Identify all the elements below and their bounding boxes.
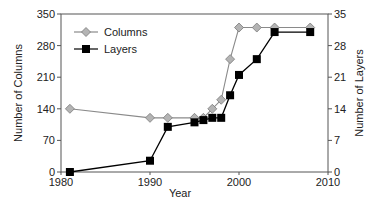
left-tick-label: 280 xyxy=(37,40,55,52)
square-marker-icon xyxy=(235,71,243,79)
diamond-marker-icon xyxy=(235,23,244,32)
right-tick-label: 35 xyxy=(334,8,346,20)
left-tick-label: 140 xyxy=(37,103,55,115)
left-y-axis-title: Number of Columns xyxy=(12,44,24,142)
diamond-marker-icon xyxy=(163,113,172,122)
right-tick-label: 28 xyxy=(334,40,346,52)
plot-border xyxy=(61,14,328,172)
legend-label-columns: Columns xyxy=(104,26,148,38)
plot-frame xyxy=(61,14,328,172)
square-marker-icon xyxy=(146,157,154,165)
legend-item-layers: Layers xyxy=(74,43,138,55)
right-tick-label: 14 xyxy=(334,103,346,115)
square-marker-icon xyxy=(164,123,172,131)
square-marker-icon xyxy=(226,91,234,99)
right-y-axis: 0714212835 xyxy=(328,8,346,178)
square-marker-icon xyxy=(66,168,74,176)
right-tick-label: 7 xyxy=(334,134,340,146)
diamond-marker-icon xyxy=(82,28,91,37)
left-tick-label: 210 xyxy=(37,71,55,83)
square-marker-icon xyxy=(217,114,225,122)
right-y-axis-title: Number of Layers xyxy=(353,49,365,137)
x-axis-title: Year xyxy=(169,187,192,199)
square-marker-icon xyxy=(306,28,314,36)
diamond-marker-icon xyxy=(226,55,235,64)
x-tick-label: 1990 xyxy=(138,176,162,188)
legend-item-columns: Columns xyxy=(74,26,148,38)
square-marker-icon xyxy=(208,114,216,122)
series-line xyxy=(70,28,310,118)
square-marker-icon xyxy=(253,55,261,63)
x-tick-label: 2010 xyxy=(316,176,340,188)
square-marker-icon xyxy=(199,116,207,124)
square-marker-icon xyxy=(191,118,199,126)
x-tick-label: 1980 xyxy=(49,176,73,188)
x-axis: 1980199020002010 xyxy=(49,172,340,188)
diamond-marker-icon xyxy=(252,23,261,32)
legend: Columns Layers xyxy=(74,26,148,55)
series-layer xyxy=(65,23,314,176)
dual-axis-line-chart: 070140210280350 0714212835 1980199020002… xyxy=(0,0,381,212)
right-tick-label: 21 xyxy=(334,71,346,83)
diamond-marker-icon xyxy=(65,104,74,113)
diamond-marker-icon xyxy=(146,113,155,122)
series-columns xyxy=(65,23,314,122)
square-marker-icon xyxy=(271,28,279,36)
left-y-axis: 070140210280350 xyxy=(37,8,61,178)
legend-label-layers: Layers xyxy=(104,43,138,55)
left-tick-label: 350 xyxy=(37,8,55,20)
x-tick-label: 2000 xyxy=(227,176,251,188)
square-marker-icon xyxy=(82,45,90,53)
left-tick-label: 70 xyxy=(43,134,55,146)
